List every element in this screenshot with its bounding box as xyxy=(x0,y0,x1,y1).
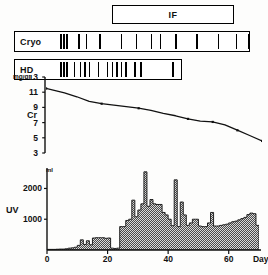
uv-axis-lines xyxy=(41,162,263,262)
event-tick xyxy=(99,34,100,49)
uv-y-tick-label: 1000 xyxy=(12,214,42,224)
cr-plot-area xyxy=(46,77,262,153)
cr-y-tick-label: 9 xyxy=(24,102,38,112)
event-tick xyxy=(136,34,137,49)
uv-chart: ml UV 10002000 0204060 Day xyxy=(0,162,268,275)
event-tick xyxy=(196,34,197,49)
treatment-box-if-label: IF xyxy=(169,10,178,20)
event-tick xyxy=(160,34,161,49)
cr-line-svg xyxy=(46,77,262,153)
event-row-cryo-label: Cryo xyxy=(19,37,42,47)
event-tick xyxy=(66,34,67,49)
event-tick xyxy=(121,34,122,49)
event-tick xyxy=(248,34,249,49)
event-tick xyxy=(86,34,87,49)
event-row-hd-label: HD xyxy=(19,65,34,75)
cr-chart: mg/dl Cr 13119753 xyxy=(0,72,268,160)
event-row-cryo: Cryo xyxy=(14,31,250,52)
event-ticks-cryo xyxy=(15,32,249,51)
event-tick xyxy=(78,34,79,49)
event-tick xyxy=(218,34,219,49)
cr-y-axis-line xyxy=(40,72,50,160)
cr-y-tick-label: 11 xyxy=(24,87,38,97)
cr-y-tick-label: 7 xyxy=(24,118,38,128)
uv-y-tick-label: 2000 xyxy=(12,183,42,193)
event-tick xyxy=(175,34,176,49)
treatment-box-if: IF xyxy=(112,5,234,24)
event-tick xyxy=(63,34,64,49)
event-tick xyxy=(236,34,237,49)
cr-y-tick-label: 3 xyxy=(24,148,38,158)
cr-y-tick-label: 5 xyxy=(24,133,38,143)
event-tick xyxy=(60,34,61,49)
event-tick xyxy=(151,34,152,49)
